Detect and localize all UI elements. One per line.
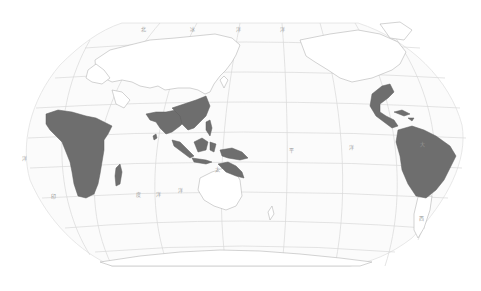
ocean-label: 冰 [190, 26, 195, 32]
ocean-label: 太 [215, 166, 220, 173]
ocean-label: 北 [141, 26, 146, 33]
ocean-label: 洋 [280, 26, 285, 33]
ocean-label: 西 [419, 215, 424, 222]
ocean-label: 度 [136, 191, 141, 198]
ocean-label: 洋 [156, 191, 161, 198]
ocean-label: 洋 [236, 26, 241, 33]
ocean-label: 大 [420, 141, 425, 148]
ocean-label: 洋 [178, 187, 183, 194]
world-map: 印 度 洋 洋 太 平 洋 大 西 洋 北 冰 洋 洋 [0, 0, 481, 291]
ocean-label: 洋 [349, 144, 354, 151]
ocean-label: 平 [289, 147, 294, 154]
ocean-label: 印 [51, 193, 56, 200]
ocean-label: 洋 [22, 155, 27, 162]
